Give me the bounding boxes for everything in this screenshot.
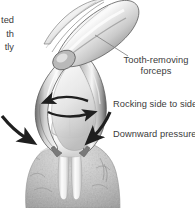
clipped-line-2: th [0, 28, 14, 42]
dental-extraction-figure: ted th tly Tooth-removing forceps Rockin… [0, 0, 195, 208]
clipped-line-3: tly [0, 41, 14, 55]
label-rocking-side-to-side: Rocking side to side [113, 99, 195, 110]
label-downward-pressure: Downward pressure [113, 129, 195, 140]
label-tooth-removing-forceps: Tooth-removing forceps [117, 55, 195, 78]
pressure-arrow-left [2, 116, 26, 138]
clipped-caption-text: ted th tly [0, 14, 14, 55]
clipped-line-1: ted [0, 14, 14, 28]
